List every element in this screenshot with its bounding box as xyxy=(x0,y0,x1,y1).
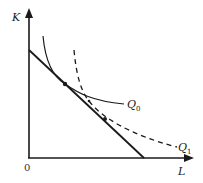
q1-label: Q xyxy=(178,141,187,154)
q0-label: Q xyxy=(127,98,136,111)
isoquant-q1 xyxy=(74,50,177,147)
q1-subscript: 1 xyxy=(187,148,191,156)
l-axis-label: L xyxy=(177,165,185,178)
k-axis-arrow-icon xyxy=(25,8,33,18)
point-lower xyxy=(103,117,107,121)
point-mid xyxy=(88,100,91,103)
tangency-point xyxy=(63,82,67,86)
k-axis-label: K xyxy=(11,11,21,24)
isoquant-diagram: K L 0 Q 0 Q 1 xyxy=(0,0,203,183)
origin-label: 0 xyxy=(24,162,30,173)
q0-subscript: 0 xyxy=(136,105,140,113)
isoquant-q0 xyxy=(43,36,124,104)
